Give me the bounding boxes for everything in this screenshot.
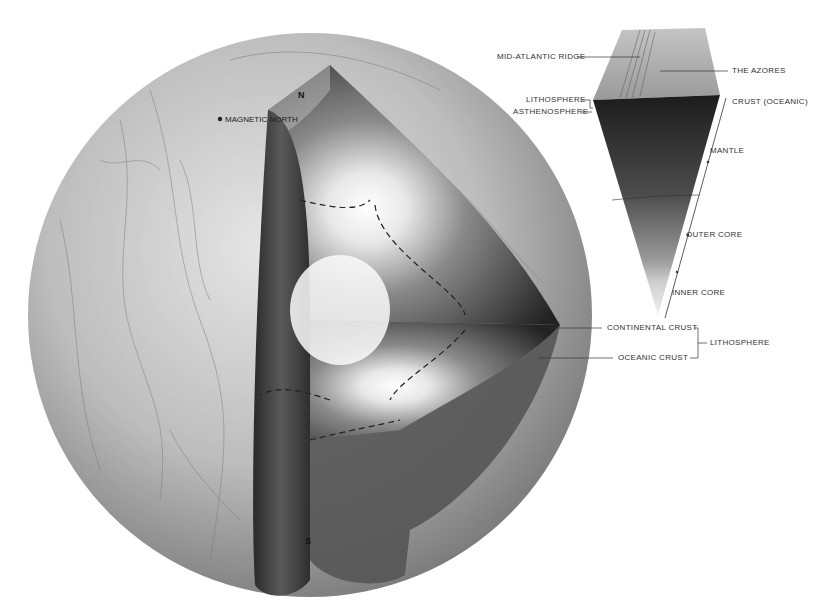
earth-diagram: MAGNETIC NORTH N S xyxy=(0,0,825,609)
north-pole-label: N xyxy=(298,90,305,100)
azores-label: THE AZORES xyxy=(732,66,786,76)
wedge-inset xyxy=(577,28,728,318)
inner-core xyxy=(290,255,390,365)
mantle-label: MANTLE xyxy=(710,146,744,156)
globe xyxy=(28,33,592,597)
mid-atlantic-ridge-label: MID-ATLANTIC RIDGE xyxy=(497,52,585,62)
inner-core-label: INNER CORE xyxy=(672,288,725,298)
wedge-surface-cap xyxy=(593,28,720,100)
magnetic-north-label: MAGNETIC NORTH xyxy=(225,115,298,124)
oceanic-crust-label: OCEANIC CRUST xyxy=(618,353,688,363)
wedge-interior xyxy=(593,95,720,315)
lithosphere-inset-label: LITHOSPHERE xyxy=(526,95,586,105)
continental-crust-label: CONTINENTAL CRUST xyxy=(607,323,697,333)
lithosphere-group-label: LITHOSPHERE xyxy=(710,338,770,348)
outer-core-label: OUTER CORE xyxy=(686,230,742,240)
crust-oceanic-label: CRUST (OCEANIC) xyxy=(732,97,808,107)
asthenosphere-label: ASTHENOSPHERE xyxy=(513,107,588,117)
south-pole-label: S xyxy=(305,536,311,546)
magnetic-north-marker xyxy=(218,117,222,121)
